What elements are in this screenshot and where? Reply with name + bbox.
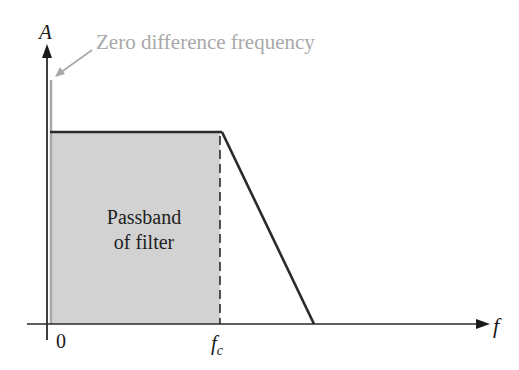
cutoff-label-subscript: c — [217, 343, 223, 358]
y-axis-arrow-icon — [42, 44, 52, 58]
y-axis-label: A — [39, 20, 52, 45]
passband-label: Passband of filter — [84, 205, 204, 255]
passband-label-line1: Passband — [84, 205, 204, 230]
filter-response-diagram — [0, 0, 519, 370]
cutoff-label: fc — [211, 331, 223, 359]
passband-label-line2: of filter — [84, 230, 204, 255]
rolloff-slope — [222, 132, 314, 324]
zero-frequency-annotation: Zero difference frequency — [96, 30, 315, 55]
annotation-arrow-line — [60, 50, 92, 73]
x-axis-label: f — [493, 313, 499, 339]
origin-label: 0 — [56, 330, 66, 353]
x-axis-arrow-icon — [476, 319, 490, 329]
annotation-arrowhead-icon — [55, 67, 65, 77]
